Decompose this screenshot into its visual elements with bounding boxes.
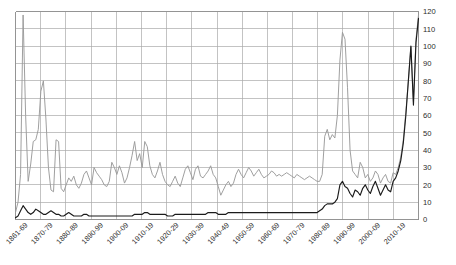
y-tick-label: 110 bbox=[423, 25, 435, 34]
chart-canvas: 0102030405060708090100110120 1861-691870… bbox=[0, 0, 456, 265]
y-tick-label: 70 bbox=[423, 94, 431, 103]
x-tick-label: 1900-09 bbox=[105, 221, 131, 247]
y-tick-label: 120 bbox=[423, 7, 436, 16]
x-tick-label: 2000-09 bbox=[357, 221, 383, 247]
y-tick-label: 20 bbox=[423, 181, 431, 190]
x-tick-label: 1920-29 bbox=[155, 221, 181, 247]
line-chart: 0102030405060708090100110120 1861-691870… bbox=[0, 0, 456, 265]
x-tick-label: 1910-19 bbox=[130, 221, 156, 247]
x-tick-label: 1980-89 bbox=[306, 221, 332, 247]
x-tick-label: 1970-79 bbox=[281, 221, 307, 247]
y-tick-label: 10 bbox=[423, 198, 431, 207]
y-tick-label: 30 bbox=[423, 163, 431, 172]
x-tick-label: 1930-39 bbox=[180, 221, 206, 247]
x-tick-label: 1940-49 bbox=[205, 221, 231, 247]
x-tick-label: 1950-59 bbox=[231, 221, 257, 247]
x-tick-label: 1890-99 bbox=[80, 221, 106, 247]
x-tick-label: 1870-79 bbox=[29, 221, 55, 247]
y-axis-tick-labels: 0102030405060708090100110120 bbox=[423, 7, 436, 224]
x-tick-label: 1960-69 bbox=[256, 221, 282, 247]
y-tick-label: 60 bbox=[423, 111, 431, 120]
x-tick-label: 1990-99 bbox=[331, 221, 357, 247]
x-tick-label: 1861-69 bbox=[4, 221, 30, 247]
y-tick-label: 80 bbox=[423, 77, 431, 86]
x-axis-tick-labels: 1861-691870-791880-891890-991900-091910-… bbox=[4, 221, 407, 247]
y-tick-label: 0 bbox=[423, 215, 427, 224]
x-tick-label: 1880-89 bbox=[54, 221, 80, 247]
y-tick-label: 100 bbox=[423, 42, 436, 51]
y-tick-label: 90 bbox=[423, 59, 431, 68]
y-tick-label: 50 bbox=[423, 129, 431, 138]
y-tick-label: 40 bbox=[423, 146, 431, 155]
x-tick-label: 2010-19 bbox=[382, 221, 408, 247]
